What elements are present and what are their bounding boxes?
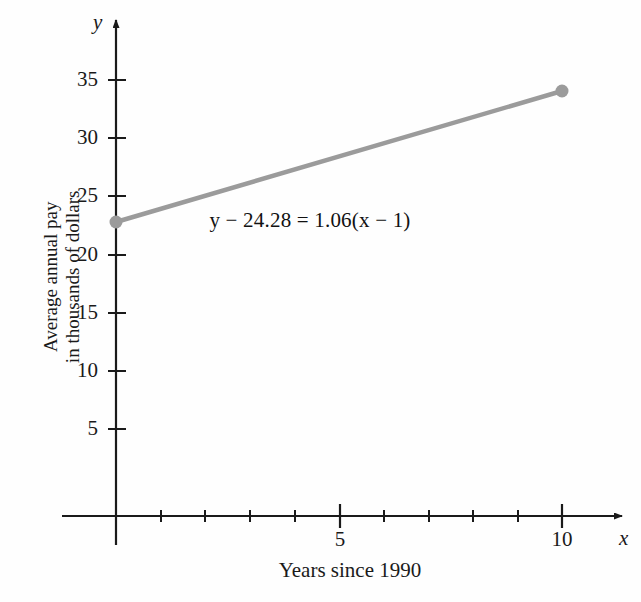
y-axis-label: Average annual pay in thousands of dolla… xyxy=(40,152,84,402)
y-axis-symbol: y xyxy=(93,10,102,35)
x-axis-symbol: x xyxy=(619,526,628,551)
chart-figure: 35 30 25 20 15 10 5 5 10 y x Average ann… xyxy=(0,0,641,602)
x-tick-label-10: 10 xyxy=(542,529,582,550)
trend-line xyxy=(116,91,562,222)
data-point-end xyxy=(556,85,569,98)
y-tick-label-30: 30 xyxy=(58,127,98,148)
y-tick-label-35: 35 xyxy=(58,69,98,90)
y-tick-label-5: 5 xyxy=(58,418,98,439)
y-axis-label-line-2: in thousands of dollars xyxy=(62,152,84,402)
x-axis-label: Years since 1990 xyxy=(180,558,520,583)
equation-annotation: y − 24.28 = 1.06(x − 1) xyxy=(120,208,500,233)
x-tick-label-5: 5 xyxy=(320,529,360,550)
y-axis-label-line-1: Average annual pay xyxy=(40,152,62,402)
